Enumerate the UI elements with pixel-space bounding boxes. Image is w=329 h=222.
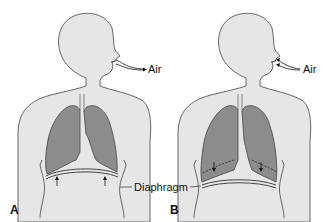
panel-a-label: A xyxy=(10,203,19,217)
panel-b-figure xyxy=(178,13,311,222)
panel-b-air-in-arrow xyxy=(276,58,300,70)
panel-a-air-out-arrow xyxy=(116,60,147,72)
panel-b-air-label: Air xyxy=(303,63,316,75)
panel-a-figure xyxy=(18,13,151,222)
panel-b-label: B xyxy=(170,203,179,217)
diaphragm-label: Diaphragm xyxy=(134,181,188,193)
panel-a-air-label: Air xyxy=(148,63,161,75)
